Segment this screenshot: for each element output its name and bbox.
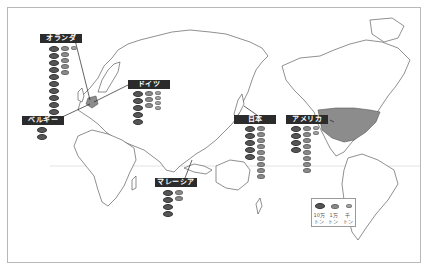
stack-malaysia xyxy=(163,190,183,218)
large-coin-icon xyxy=(49,53,59,59)
medium-coin-icon xyxy=(175,190,183,195)
medium-coin-icon xyxy=(303,168,311,173)
medium-coin-icon xyxy=(257,144,265,149)
coin-column-large xyxy=(163,190,173,218)
large-coin-icon xyxy=(49,60,59,66)
medium-coin-icon xyxy=(303,138,311,143)
label-belgium: ベルギー xyxy=(22,116,64,125)
large-coin-icon xyxy=(49,67,59,73)
medium-coin-icon xyxy=(145,103,153,108)
south-america-outline xyxy=(342,154,398,240)
large-coin-icon xyxy=(245,133,255,139)
large-coin-icon xyxy=(163,204,173,210)
large-coin-icon xyxy=(245,140,255,146)
large-coin-icon xyxy=(245,154,255,160)
large-coin-icon xyxy=(37,127,47,133)
medium-coin-icon xyxy=(145,97,153,102)
label-malaysia: マレーシア xyxy=(155,178,197,187)
large-coin-icon xyxy=(49,81,59,87)
coin-column-medium xyxy=(257,126,265,180)
large-coin-icon xyxy=(163,197,173,203)
large-coin-icon xyxy=(133,112,143,118)
medium-coin-icon xyxy=(175,196,183,201)
large-coin-icon xyxy=(49,102,59,108)
stack-belgium xyxy=(37,127,47,141)
legend-label-medium: 1万 トン xyxy=(327,212,339,224)
legend-label-large: 10万 トン xyxy=(313,212,325,224)
large-coin-icon xyxy=(245,147,255,153)
legend: 10万 トン 1万 トン 千 トン xyxy=(311,198,356,227)
coin-column-large xyxy=(133,91,143,126)
large-coin-icon xyxy=(37,134,47,140)
medium-coin-icon xyxy=(257,132,265,137)
coin-column-small xyxy=(313,126,319,174)
large-coin-icon xyxy=(49,46,59,52)
medium-coin-icon xyxy=(61,52,69,57)
medium-coin-icon xyxy=(303,132,311,137)
stack-japan xyxy=(245,126,265,180)
large-coin-icon xyxy=(133,105,143,111)
legend-large-coin-icon xyxy=(315,203,325,209)
medium-coin-icon xyxy=(303,150,311,155)
coin-column-large xyxy=(37,127,47,141)
medium-coin-icon xyxy=(145,91,153,96)
small-coin-icon xyxy=(155,91,161,95)
large-coin-icon xyxy=(49,74,59,80)
large-coin-icon xyxy=(291,140,301,146)
coin-column-medium xyxy=(145,91,153,126)
coin-column-large xyxy=(49,46,59,116)
large-coin-icon xyxy=(163,190,173,196)
medium-coin-icon xyxy=(61,46,69,51)
small-coin-icon xyxy=(155,106,161,110)
medium-coin-icon xyxy=(61,64,69,69)
medium-coin-icon xyxy=(257,150,265,155)
stack-usa xyxy=(291,126,319,174)
medium-coin-icon xyxy=(303,156,311,161)
small-coin-icon xyxy=(155,96,161,100)
small-coin-icon xyxy=(71,46,77,50)
medium-coin-icon xyxy=(61,70,69,75)
coin-column-large xyxy=(291,126,301,174)
medium-coin-icon xyxy=(61,58,69,63)
large-coin-icon xyxy=(133,119,143,125)
large-coin-icon xyxy=(49,88,59,94)
label-japan: 日本 xyxy=(234,115,276,124)
label-usa: アメリカ xyxy=(286,115,328,124)
medium-coin-icon xyxy=(257,156,265,161)
coin-column-small xyxy=(71,46,77,116)
large-coin-icon xyxy=(49,109,59,115)
large-coin-icon xyxy=(133,91,143,97)
large-coin-icon xyxy=(291,126,301,132)
medium-coin-icon xyxy=(303,126,311,131)
medium-coin-icon xyxy=(303,162,311,167)
madagascar-outline xyxy=(132,176,136,190)
small-coin-icon xyxy=(313,126,319,130)
coin-column-medium xyxy=(175,190,183,218)
coin-column-large xyxy=(245,126,255,180)
medium-coin-icon xyxy=(257,126,265,131)
large-coin-icon xyxy=(291,133,301,139)
stack-germany xyxy=(133,91,161,126)
label-germany: ドイツ xyxy=(128,80,170,89)
legend-small-coin-icon xyxy=(346,204,352,208)
large-coin-icon xyxy=(245,126,255,132)
legend-label-small: 千 トン xyxy=(342,212,354,224)
small-coin-icon xyxy=(155,101,161,105)
large-coin-icon xyxy=(133,98,143,104)
medium-coin-icon xyxy=(257,168,265,173)
large-coin-icon xyxy=(49,95,59,101)
coin-column-medium xyxy=(61,46,69,116)
greenland-outline xyxy=(370,18,404,42)
medium-coin-icon xyxy=(303,144,311,149)
coin-column-medium xyxy=(303,126,311,174)
small-coin-icon xyxy=(313,131,319,135)
legend-medium-coin-icon xyxy=(331,204,339,209)
coin-column-small xyxy=(155,91,161,126)
medium-coin-icon xyxy=(257,138,265,143)
large-coin-icon xyxy=(291,147,301,153)
medium-coin-icon xyxy=(257,162,265,167)
medium-coin-icon xyxy=(257,174,265,179)
stack-netherlands xyxy=(49,46,77,116)
label-netherlands: オランダ xyxy=(40,34,82,43)
large-coin-icon xyxy=(163,211,173,217)
